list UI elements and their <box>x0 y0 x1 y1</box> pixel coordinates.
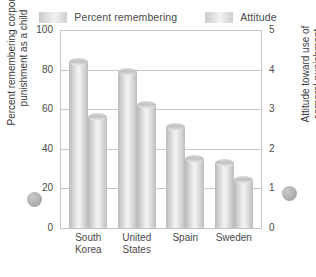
bar <box>166 127 185 228</box>
bar <box>234 180 253 228</box>
category-axis-labels: South KoreaUnited StatesSpainSweden <box>60 232 262 255</box>
bar <box>215 163 234 228</box>
right-axis-title: Attitude toward use of corporal punishme… <box>300 14 316 134</box>
bar-cap <box>234 176 253 184</box>
category-label: United States <box>114 232 160 255</box>
legend-label-attitude: Attitude <box>240 11 276 23</box>
right-tick-4: 4 <box>269 65 275 75</box>
right-tick-2: 2 <box>269 144 275 154</box>
left-axis-title: Percent remembering corporal punishment … <box>6 0 30 134</box>
left-tick-60: 60 <box>42 104 53 114</box>
bar-cap <box>88 113 107 121</box>
gridline-0 <box>60 228 262 229</box>
legend-label-percent-remembering: Percent remembering <box>74 11 177 23</box>
bar-cap <box>69 58 88 66</box>
right-tick-3: 3 <box>269 104 275 114</box>
bar-group <box>215 30 253 228</box>
bar-group <box>166 30 204 228</box>
bar-cap <box>215 159 234 167</box>
left-tick-0: 0 <box>47 223 53 233</box>
bar-cap <box>185 155 204 163</box>
legend-swatch-percent-remembering <box>39 12 67 23</box>
legend-item-percent-remembering: Percent remembering <box>39 11 177 23</box>
bar <box>69 62 88 228</box>
category-label: South Korea <box>65 232 111 255</box>
bar-cap <box>137 101 156 109</box>
bar-cap <box>118 68 137 76</box>
right-axis-dot-icon <box>282 186 297 201</box>
bar-cap <box>166 123 185 131</box>
chart-container: Percent remembering Attitude 0 20 40 60 … <box>0 0 316 277</box>
category-label: Spain <box>162 232 208 255</box>
left-tick-80: 80 <box>42 65 53 75</box>
legend-swatch-attitude <box>205 12 233 23</box>
bar <box>137 105 156 228</box>
right-tick-5: 5 <box>269 25 275 35</box>
category-label: Sweden <box>211 232 257 255</box>
bar <box>185 159 204 228</box>
left-tick-40: 40 <box>42 144 53 154</box>
left-tick-100: 100 <box>36 25 53 35</box>
left-tick-20: 20 <box>42 183 53 193</box>
bar-groups <box>60 30 262 228</box>
right-tick-1: 1 <box>269 183 275 193</box>
bar-group <box>69 30 107 228</box>
bar <box>118 72 137 228</box>
plot-area: 0 20 40 60 80 100 0 1 2 3 4 5 <box>60 30 262 228</box>
bar-group <box>118 30 156 228</box>
legend-item-attitude: Attitude <box>205 11 276 23</box>
right-tick-0: 0 <box>269 223 275 233</box>
left-axis-dot-icon <box>27 192 42 207</box>
bar <box>88 117 107 228</box>
